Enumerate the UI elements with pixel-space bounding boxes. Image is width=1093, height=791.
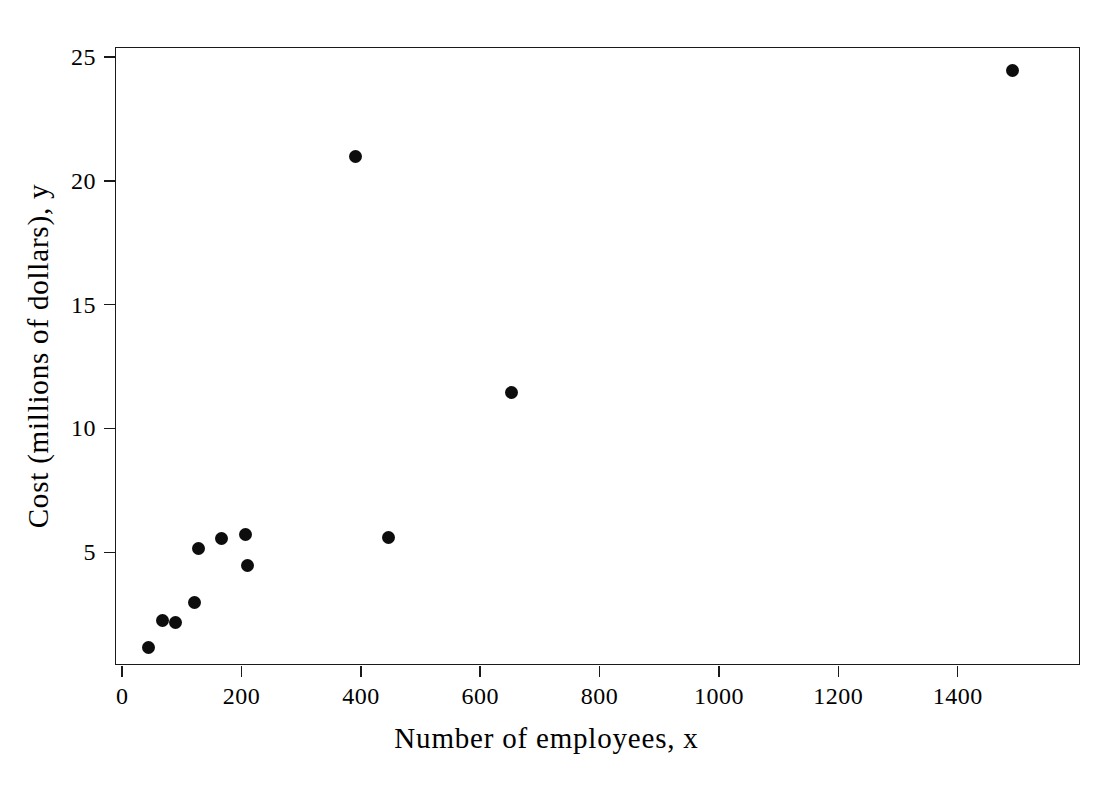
data-point: [215, 532, 228, 545]
x-axis-tick: [838, 666, 840, 677]
data-point: [142, 641, 155, 654]
x-axis-tick-label: 200: [223, 682, 261, 710]
data-point: [156, 614, 169, 627]
x-axis-tick: [957, 666, 959, 677]
x-axis-tick: [479, 666, 481, 677]
y-axis-tick: [104, 304, 115, 306]
y-axis-tick: [104, 552, 115, 554]
data-point: [241, 559, 254, 572]
data-point: [192, 542, 205, 555]
data-point: [1006, 64, 1019, 77]
x-axis-tick: [121, 666, 123, 677]
data-point: [188, 596, 201, 609]
scatter-plot-figure: Cost (millions of dollars), y 510152025 …: [0, 0, 1093, 791]
x-axis-tick-label: 1400: [933, 682, 983, 710]
y-axis-tick: [104, 56, 115, 58]
y-axis-tick-label: 10: [71, 414, 96, 442]
x-axis-tick-label: 600: [461, 682, 499, 710]
x-axis-tick-label: 800: [581, 682, 619, 710]
data-points-layer: [116, 48, 1079, 664]
data-point: [239, 528, 252, 541]
y-axis-tick: [104, 428, 115, 430]
y-axis-title: Cost (millions of dollars), y: [22, 184, 55, 529]
x-axis-tick-label: 0: [116, 682, 129, 710]
x-axis-tick-label: 400: [342, 682, 380, 710]
x-axis-tick-label: 1200: [813, 682, 863, 710]
x-axis-title: Number of employees, x: [0, 722, 1093, 755]
x-axis-tick: [599, 666, 601, 677]
data-point: [505, 386, 518, 399]
data-point: [382, 531, 395, 544]
data-point: [349, 150, 362, 163]
plot-area: [115, 47, 1080, 665]
y-axis-tick-label: 25: [71, 43, 96, 71]
x-axis-tick-label: 1000: [694, 682, 744, 710]
x-axis-tick: [360, 666, 362, 677]
y-axis-tick: [104, 180, 115, 182]
y-axis-tick-label: 20: [71, 167, 96, 195]
y-axis-tick-label: 5: [84, 538, 97, 566]
y-axis-title-container: Cost (millions of dollars), y: [18, 0, 58, 791]
x-axis-tick: [241, 666, 243, 677]
data-point: [169, 616, 182, 629]
y-axis-tick-label: 15: [71, 291, 96, 319]
x-axis-tick: [718, 666, 720, 677]
